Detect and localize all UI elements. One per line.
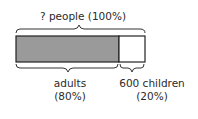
children-percent: (20%) xyxy=(117,90,187,103)
adults-label: adults (80%) xyxy=(50,77,90,103)
children-label: 600 children (20%) xyxy=(117,77,187,103)
adults-percent: (80%) xyxy=(50,90,90,103)
children-brace xyxy=(120,64,144,72)
children-segment xyxy=(119,36,145,62)
total-brace xyxy=(16,25,145,33)
adults-segment xyxy=(16,36,119,62)
adults-name: adults xyxy=(50,77,90,90)
children-name: 600 children xyxy=(117,77,187,90)
adults-brace xyxy=(16,64,118,72)
